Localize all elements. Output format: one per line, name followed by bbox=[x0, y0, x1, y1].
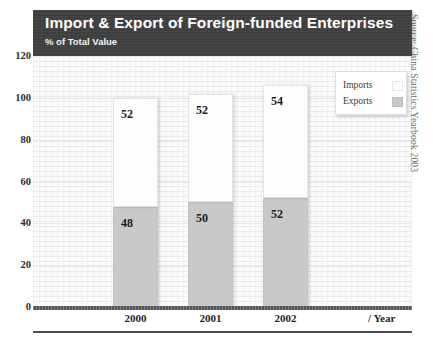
legend-label: Exports bbox=[343, 96, 373, 106]
bar-segment-exports[interactable]: 48 bbox=[113, 207, 158, 307]
x-axis-line bbox=[33, 306, 412, 310]
footer-divider bbox=[33, 331, 412, 333]
bar-group[interactable]: 5052 bbox=[188, 56, 233, 307]
y-axis-tick-label: 120 bbox=[3, 51, 31, 61]
bar-segment-imports[interactable]: 54 bbox=[263, 85, 308, 198]
legend-swatch-imports-icon bbox=[392, 81, 403, 91]
bar-value-label: 50 bbox=[196, 211, 208, 226]
x-axis-tick-label: 2001 bbox=[176, 312, 246, 324]
chart-subtitle: % of Total Value bbox=[45, 36, 117, 47]
bar-segment-imports[interactable]: 52 bbox=[188, 94, 233, 203]
y-axis-tick-label: 60 bbox=[3, 177, 31, 187]
legend-item-imports[interactable]: Imports bbox=[343, 80, 403, 94]
bar-value-label: 48 bbox=[121, 216, 133, 231]
x-axis-tick-label: 2000 bbox=[101, 312, 171, 324]
bar-segment-exports[interactable]: 52 bbox=[263, 198, 308, 307]
bar-value-label: 52 bbox=[196, 103, 208, 118]
bar-group[interactable]: 5254 bbox=[263, 56, 308, 307]
legend-label: Imports bbox=[343, 80, 373, 90]
y-axis-tick-label: 40 bbox=[3, 218, 31, 228]
y-axis-tick-label: 100 bbox=[3, 93, 31, 103]
bar-value-label: 54 bbox=[271, 94, 283, 109]
y-axis-tick-labels: 020406080100120 bbox=[0, 0, 31, 339]
chart-figure: Import & Export of Foreign-funded Enterp… bbox=[0, 0, 441, 339]
x-axis-title: / Year bbox=[368, 312, 438, 324]
bar-segment-exports[interactable]: 50 bbox=[188, 202, 233, 307]
bar-value-label: 52 bbox=[121, 107, 133, 122]
chart-legend: ImportsExports bbox=[335, 71, 407, 115]
x-axis-tick-label: 2002 bbox=[251, 312, 321, 324]
legend-item-exports[interactable]: Exports bbox=[343, 96, 403, 110]
bar-group[interactable]: 4852 bbox=[113, 56, 158, 307]
chart-title-banner: Import & Export of Foreign-funded Enterp… bbox=[33, 10, 412, 56]
chart-title: Import & Export of Foreign-funded Enterp… bbox=[45, 14, 393, 32]
y-axis-tick-label: 0 bbox=[3, 302, 31, 312]
y-axis-tick-label: 80 bbox=[3, 135, 31, 145]
bar-value-label: 52 bbox=[271, 207, 283, 222]
legend-swatch-exports-icon bbox=[392, 97, 403, 107]
source-note: Source: China Statistics Yearbook 2003 bbox=[409, 14, 419, 172]
bar-segment-imports[interactable]: 52 bbox=[113, 98, 158, 207]
y-axis-tick-label: 20 bbox=[3, 260, 31, 270]
